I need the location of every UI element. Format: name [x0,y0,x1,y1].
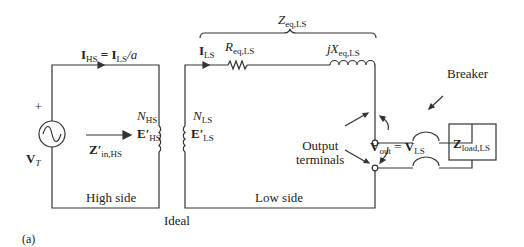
high-side-label: High side [86,191,136,204]
ls-current-arrow [203,62,209,68]
ls-emf-label: E′LS [191,127,214,143]
breaker-label: Breaker [447,67,488,80]
ls-turns-label: NLS [193,109,212,125]
vout-label: Vout = VLS [370,140,425,156]
resistor-icon [228,61,247,69]
input-impedance-label: Z′in,HS [89,143,122,159]
hs-turns-label: NHS [137,109,157,125]
vout-arc-top [384,119,389,130]
terminals-pointer-top [345,114,366,126]
vout-arc-bottom-head [380,158,385,163]
resistor-label: Req,LS [225,40,254,56]
hs-current-label: IHS = ILS/a [81,48,137,64]
source-plus: + [35,101,42,113]
vout-arc-top-head [380,116,385,121]
zeq-brace [200,29,376,38]
circuit-diagram [0,0,524,247]
ideal-label: Ideal [164,214,190,227]
terminals-pointer-top-head [363,113,368,117]
inductor-icon [330,61,375,66]
breaker-bottom-icon [413,157,439,166]
load-label: Zload,LS [453,137,490,153]
breaker-lead-bottom-right [439,160,472,168]
terminals-pointer-bottom [345,150,366,162]
zin-arrow-head [123,131,131,139]
source-label: VT [26,152,40,168]
terminals-pointer-bottom-head [364,159,369,163]
panel-label: (a) [22,233,35,245]
output-terminals-label: Output terminals [296,139,344,167]
low-side-label: Low side [255,191,303,204]
zeq-label: Zeq,LS [278,13,306,29]
ls-current-label: ILS [199,44,215,60]
output-terminal-bottom [372,165,378,171]
ls-wire-right [374,65,375,140]
reactance-label: jXeq,LS [327,42,360,58]
ls-coil-icon [183,126,185,152]
sine-icon [43,127,61,142]
hs-emf-label: E′HS [137,127,161,143]
